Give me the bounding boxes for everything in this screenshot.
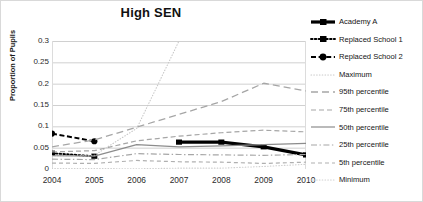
plot-svg: [52, 41, 306, 169]
y-tick-label: 0.1: [5, 122, 49, 130]
series-line: [52, 134, 94, 142]
y-tick-label: 0.2: [5, 80, 49, 88]
series-line: [52, 164, 306, 168]
legend-item-replaced-school-1[interactable]: Replaced School 1: [310, 31, 422, 49]
legend-item-label: 25th percentile: [339, 141, 389, 149]
series-minimum: [52, 164, 306, 168]
y-tick-label: 0.25: [5, 58, 49, 66]
x-tick-label: 2008: [212, 175, 231, 185]
legend-item-label: 95th percentile: [339, 88, 389, 96]
legend-item-95th-percentile[interactable]: 95th percentile: [310, 83, 422, 101]
legend-item-75th-percentile[interactable]: 75th percentile: [310, 101, 422, 119]
legend-swatch-icon: [310, 173, 336, 187]
series-replaced-school-2: [52, 130, 97, 144]
legend-swatch-icon: [310, 50, 336, 64]
y-tick-label: 0.05: [5, 144, 49, 152]
x-tick-label: 2006: [127, 175, 146, 185]
x-axis-tick-labels: 2004200520062007200820092010: [52, 173, 306, 189]
legend-item-maximum[interactable]: Maximum: [310, 66, 422, 84]
plot-area: [52, 41, 306, 169]
legend-item-label: 75th percentile: [339, 106, 389, 114]
legend-item-label: Replaced School 1: [339, 36, 403, 44]
series-maximum: [52, 41, 179, 156]
legend-swatch-icon: [310, 68, 336, 82]
legend-swatch-icon: [310, 85, 336, 99]
series-line: [52, 160, 306, 163]
legend-item-replaced-school-2[interactable]: Replaced School 2: [310, 48, 422, 66]
legend-item-25th-percentile[interactable]: 25th percentile: [310, 136, 422, 154]
y-tick-label: 0: [5, 165, 49, 173]
legend-item-label: Replaced School 2: [339, 53, 403, 61]
data-point-marker: [52, 130, 55, 136]
legend-item-50th-percentile[interactable]: 50th percentile: [310, 119, 422, 137]
series-replaced-school-1: [52, 151, 97, 159]
chart-legend: Academy AReplaced School 1Replaced Schoo…: [310, 13, 422, 189]
legend-item-label: Maximum: [339, 71, 372, 79]
series-5th-percentile: [52, 160, 306, 163]
legend-swatch-icon: [310, 15, 336, 29]
legend-item-academy-a[interactable]: Academy A: [310, 13, 422, 31]
x-tick-label: 2007: [170, 175, 189, 185]
legend-swatch-icon: [310, 120, 336, 134]
legend-item-minimum[interactable]: Minimum: [310, 171, 422, 189]
legend-swatch-icon: [310, 138, 336, 152]
series-line: [52, 83, 306, 147]
y-tick-label: 0.3: [5, 37, 49, 45]
chart-container: High SEN Proportion of Pupils 00.050.10.…: [0, 0, 423, 202]
legend-swatch-icon: [310, 156, 336, 170]
x-tick-label: 2004: [43, 175, 62, 185]
legend-swatch-icon: [310, 32, 336, 46]
data-point-marker: [218, 140, 224, 145]
x-tick-label: 2005: [85, 175, 104, 185]
series-95th-percentile: [52, 83, 306, 147]
legend-swatch-icon: [310, 103, 336, 117]
legend-item-label: Academy A: [339, 18, 377, 26]
y-axis-tick-labels: 00.050.10.150.20.250.3: [1, 1, 49, 202]
x-tick-label: 2009: [254, 175, 273, 185]
data-point-marker: [176, 140, 182, 145]
series-line: [52, 41, 179, 156]
legend-item-label: 50th percentile: [339, 124, 389, 132]
y-tick-label: 0.15: [5, 101, 49, 109]
legend-item-label: Minimum: [339, 176, 370, 184]
legend-item-label: 5th percentile: [339, 159, 385, 167]
legend-item-5th-percentile[interactable]: 5th percentile: [310, 154, 422, 172]
